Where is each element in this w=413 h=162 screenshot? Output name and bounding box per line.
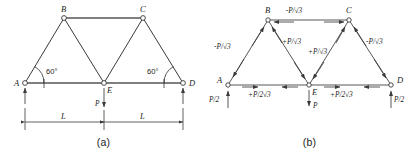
member-C-E xyxy=(104,18,143,83)
node-label-A: A xyxy=(216,75,223,85)
node-label-E: E xyxy=(311,87,318,97)
node-label-B: B xyxy=(61,4,66,14)
pin-B xyxy=(62,16,67,21)
force-label-CD: -P/√3 xyxy=(366,37,383,46)
node-label-A: A xyxy=(13,78,20,88)
panel-b-drawing: A B C D E -P/√3 -P/√3 -P/√3 +P/√3 xyxy=(206,0,413,136)
node-label-C: C xyxy=(140,4,146,14)
member-A-B xyxy=(25,18,64,83)
node-label-C: C xyxy=(346,5,352,15)
caption-panel-a: (a) xyxy=(0,136,207,148)
angle-arc-A xyxy=(35,67,45,84)
pin-B xyxy=(266,18,270,22)
node-label-D: D xyxy=(188,78,196,88)
truss-figure: A B C D E 60° 60° P L xyxy=(0,0,413,162)
node-label-B: B xyxy=(265,5,270,15)
force-label-BE: +P/√3 xyxy=(282,37,301,46)
member-B-E xyxy=(64,18,104,83)
panel-b-force-diagram: A B C D E -P/√3 -P/√3 -P/√3 +P/√3 xyxy=(206,0,413,162)
force-arrow-CE-upper xyxy=(336,27,345,43)
force-label-AE: +P/2√3 xyxy=(248,90,271,99)
pin-C xyxy=(141,16,146,21)
node-label-D: D xyxy=(396,75,404,85)
dim-label-right-L: L xyxy=(139,111,145,121)
reaction-label-A: P/2 xyxy=(208,95,219,104)
pin-C xyxy=(347,18,351,22)
angle-label-A: 60° xyxy=(46,67,57,76)
force-arrow-CD-upper xyxy=(354,27,366,46)
pin-A xyxy=(23,81,28,86)
panel-a-geometry: A B C D E 60° 60° P L xyxy=(0,0,207,162)
force-arrow-BE-lower xyxy=(294,62,305,79)
reaction-label-D: P/2 xyxy=(393,95,404,104)
node-label-E: E xyxy=(106,85,113,95)
force-arrow-CD-lower xyxy=(374,59,386,78)
pin-A xyxy=(226,83,230,87)
pin-D xyxy=(389,83,393,87)
force-arrow-BE-upper xyxy=(272,27,282,43)
load-label-P: P xyxy=(94,99,100,108)
panel-a-drawing: A B C D E 60° 60° P L xyxy=(0,0,207,136)
force-label-CE: +P/√3 xyxy=(308,47,327,56)
force-label-ED: +P/2√3 xyxy=(330,90,353,99)
force-label-BC: -P/√3 xyxy=(286,6,303,15)
force-arrow-AB-lower xyxy=(233,59,244,77)
angle-arc-D xyxy=(164,67,174,84)
load-label-P: P xyxy=(312,101,318,110)
pin-E xyxy=(307,83,311,87)
force-arrow-AB-upper xyxy=(252,27,264,46)
caption-panel-b: (b) xyxy=(206,136,413,148)
pin-E xyxy=(102,81,107,86)
dim-label-left-L: L xyxy=(60,111,66,121)
angle-label-D: 60° xyxy=(147,67,158,76)
pin-D xyxy=(181,81,186,86)
force-label-AB: -P/√3 xyxy=(214,42,231,51)
force-arrow-CE-lower xyxy=(313,62,324,79)
